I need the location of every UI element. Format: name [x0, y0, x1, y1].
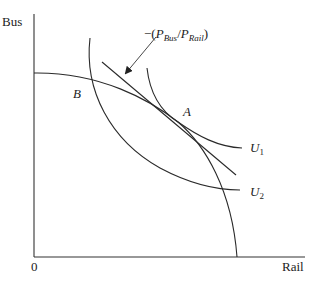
origin-label: 0 — [31, 259, 38, 274]
u1-label: U1 — [250, 140, 264, 157]
x-axis-label: Rail — [282, 259, 304, 274]
point-b-label: B — [73, 86, 81, 101]
y-axis-label: Bus — [2, 14, 22, 29]
u2-curve — [89, 38, 240, 190]
price-ratio-label: −(PBus/PRail) — [144, 26, 208, 43]
u2-label: U2 — [250, 184, 264, 201]
ppf-curve — [34, 73, 237, 257]
price-ratio-line — [102, 62, 236, 175]
u1-curve — [147, 68, 242, 148]
price-label-arrow — [126, 37, 156, 73]
point-a-label: A — [182, 104, 191, 119]
indifference-curve-diagram: Bus Rail 0 −(PBus/PRail) A B U1 U2 — [0, 0, 322, 283]
